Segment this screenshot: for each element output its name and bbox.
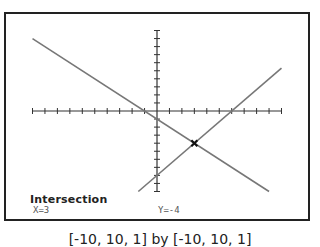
window-caption: [-10, 10, 1] by [-10, 10, 1] (0, 231, 320, 247)
x-value: X=3 (33, 205, 49, 215)
graph-line-1 (33, 39, 270, 192)
intersection-marker (191, 140, 197, 146)
y-value: Y=-4 (158, 205, 180, 215)
